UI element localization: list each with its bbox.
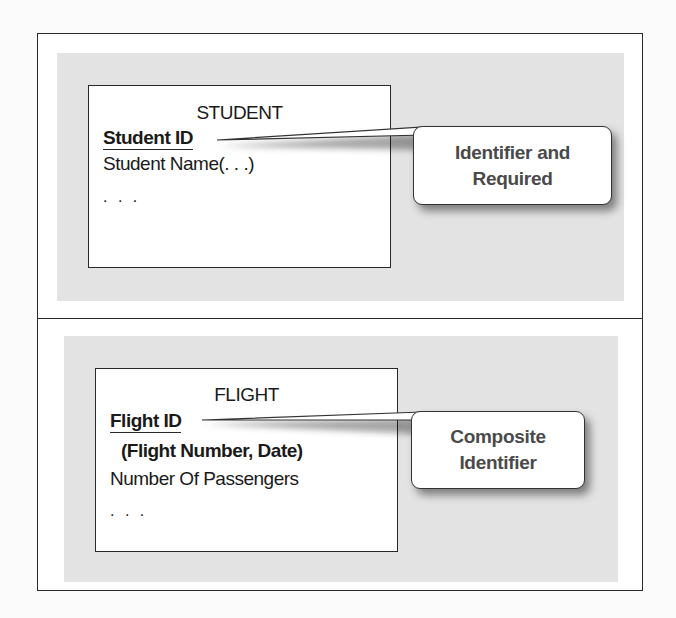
student-more-attributes: . . . — [103, 188, 140, 206]
student-id-attribute: Student ID — [103, 128, 193, 150]
student-entity-box: STUDENT Student ID Student Name(. . .) .… — [88, 85, 391, 268]
composite-identifier-callout: Composite Identifier — [411, 411, 585, 489]
callout-line-1: Identifier and — [455, 140, 570, 166]
callout-line-1: Composite — [450, 424, 545, 450]
identifier-required-callout: Identifier and Required — [413, 126, 612, 205]
callout-line-2: Identifier — [459, 450, 536, 476]
flight-id-attribute: Flight ID — [110, 411, 181, 433]
flight-entity-title: FLIGHT — [96, 384, 397, 406]
flight-id-components: (Flight Number, Date) — [121, 440, 303, 462]
section-divider — [37, 318, 643, 319]
flight-entity-box: FLIGHT Flight ID (Flight Number, Date) N… — [95, 368, 398, 552]
student-name-attribute: Student Name(. . .) — [103, 153, 254, 175]
callout-line-2: Required — [473, 166, 553, 192]
flight-more-attributes: . . . — [110, 502, 147, 520]
student-entity-title: STUDENT — [89, 102, 390, 124]
passengers-attribute: Number Of Passengers — [110, 468, 299, 490]
